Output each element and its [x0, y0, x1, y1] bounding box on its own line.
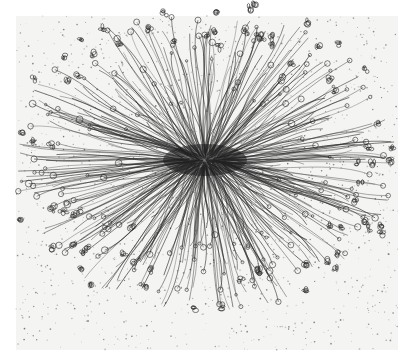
dark-core	[163, 144, 247, 176]
ink-drawing	[0, 0, 398, 364]
paper-speckles	[15, 15, 398, 350]
